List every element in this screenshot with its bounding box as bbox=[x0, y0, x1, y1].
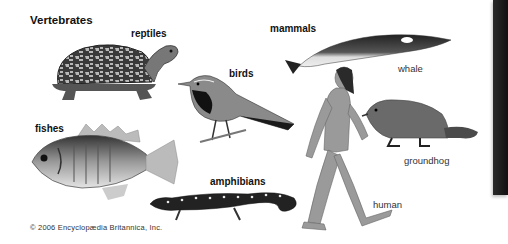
groundhog-illustration bbox=[360, 94, 480, 152]
label-groundhog: groundhog bbox=[404, 155, 449, 166]
copyright-notice: © 2006 Encyclopædia Britannica, Inc. bbox=[30, 223, 162, 232]
page-edge-bar bbox=[493, 0, 508, 195]
bird-illustration bbox=[176, 72, 298, 148]
vertebrates-figure: Vertebrates reptiles birds mammals whale… bbox=[0, 0, 508, 244]
salamander-illustration bbox=[148, 188, 300, 224]
label-amphibians: amphibians bbox=[210, 176, 266, 187]
figure-title: Vertebrates bbox=[30, 14, 93, 26]
turtle-illustration bbox=[44, 38, 184, 104]
